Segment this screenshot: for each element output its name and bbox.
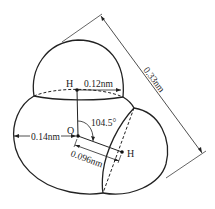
oxygen-atom-outline: [14, 96, 103, 194]
arrowhead-icon: [14, 134, 19, 138]
overall-ext-bottom: [166, 151, 206, 178]
water-molecule-diagram: H 0.12nm O 0.14nm 104.5° H 0.096nm 0.33n…: [0, 0, 215, 209]
arrowhead-icon: [114, 158, 119, 161]
bond-o-h-right: [78, 136, 122, 152]
label-overall-length: 0.33nm: [141, 65, 167, 94]
bond-o-h-top: [77, 90, 78, 136]
label-bond-length: 0.096nm: [69, 148, 104, 169]
label-h-top: H: [66, 78, 73, 89]
o-center: [76, 134, 80, 138]
label-h-radius: 0.12nm: [84, 79, 113, 89]
label-oxygen: O: [67, 125, 74, 136]
top-hydrogen-base-front: [34, 96, 123, 100]
label-bond-angle: 104.5°: [91, 118, 116, 128]
arrowhead-icon: [75, 145, 80, 148]
label-h-right: H: [127, 148, 134, 159]
label-o-radius: 0.14nm: [31, 132, 60, 142]
oxygen-atom-upper-right: [123, 97, 134, 108]
overall-ext-top: [62, 14, 102, 42]
bond-length-ext-h: [118, 155, 121, 163]
arrowhead-icon: [116, 88, 121, 92]
arrowhead-icon: [91, 136, 95, 141]
h-right-center: [120, 150, 124, 154]
